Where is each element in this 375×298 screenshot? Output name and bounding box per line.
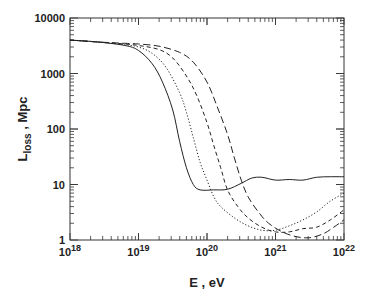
- series-dotted: [70, 40, 344, 231]
- plot-frame: [70, 18, 344, 240]
- axis-ticks: [70, 18, 344, 240]
- y-tick-label: 100: [47, 123, 65, 135]
- x-tick-base: 10: [264, 246, 276, 258]
- series-layer: [70, 40, 344, 238]
- x-tick-label: 1021: [264, 243, 286, 258]
- x-tick-label: 1022: [333, 243, 355, 258]
- x-tick-exponent: 20: [208, 243, 218, 253]
- y-axis-label: Lloss , Mpc: [15, 97, 33, 162]
- x-tick-base: 10: [59, 246, 71, 258]
- x-tick-base: 10: [333, 246, 345, 258]
- x-tick-exponent: 19: [140, 243, 150, 253]
- x-tick-exponent: 21: [277, 243, 287, 253]
- series-long-dash: [70, 40, 344, 238]
- series-short-dash: [70, 40, 344, 232]
- x-tick-label: 1019: [127, 243, 149, 258]
- y-tick-labels: 110100100010000: [34, 12, 65, 246]
- x-axis-label: E , eV: [189, 275, 225, 290]
- y-axis-label-subscript: loss: [22, 133, 33, 153]
- x-tick-exponent: 18: [71, 243, 81, 253]
- x-tick-base: 10: [196, 246, 208, 258]
- loss-length-chart: 10181019102010211022 110100100010000 E ,…: [0, 0, 375, 298]
- y-tick-label: 1000: [41, 68, 65, 80]
- y-tick-label: 10000: [34, 12, 65, 24]
- series-solid: [70, 40, 344, 190]
- x-tick-label: 1020: [196, 243, 218, 258]
- y-axis-label-main: L: [15, 153, 30, 161]
- x-tick-exponent: 22: [345, 243, 355, 253]
- x-tick-labels: 10181019102010211022: [59, 243, 355, 258]
- x-tick-base: 10: [127, 246, 139, 258]
- plot-border: [70, 18, 344, 240]
- y-tick-label: 10: [53, 179, 65, 191]
- y-tick-label: 1: [59, 234, 65, 246]
- y-axis-label-unit: , Mpc: [15, 97, 30, 134]
